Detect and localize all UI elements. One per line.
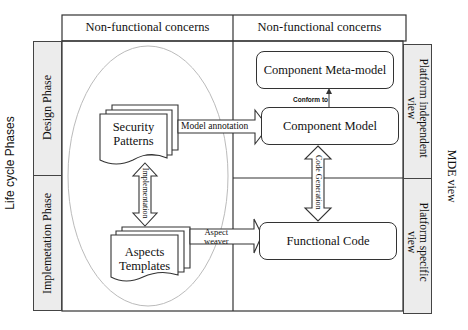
arrows-layer xyxy=(0,0,468,330)
security-patterns-line2: Patterns xyxy=(100,134,167,148)
aspects-templates-line2: Templates xyxy=(111,259,178,273)
aspect-weaver-label: Aspect weaver xyxy=(204,228,229,246)
implementation-label: Implementation xyxy=(141,163,149,223)
security-patterns-label: Security Patterns xyxy=(100,120,167,148)
aspects-templates-label: Aspects Templates xyxy=(111,245,178,273)
component-model-box: Component Model xyxy=(261,107,399,145)
functional-code-box: Functional Code xyxy=(259,222,397,260)
aspects-templates-line1: Aspects xyxy=(111,245,178,259)
component-meta-model-box: Component Meta-model xyxy=(256,51,394,89)
model-annotation-label: Model annotation xyxy=(181,121,248,131)
code-generation-label: Code Generation xyxy=(314,147,322,217)
conform-to-label: Conform to xyxy=(293,96,328,103)
security-patterns-line1: Security xyxy=(100,120,167,134)
aspect-weaver-line2: weaver xyxy=(204,237,229,246)
